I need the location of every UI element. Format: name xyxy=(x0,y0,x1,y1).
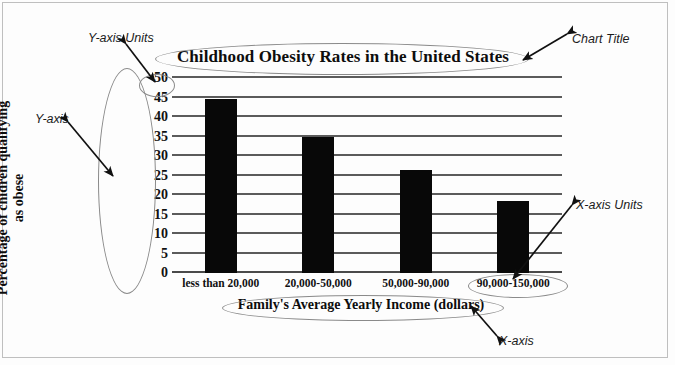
bar xyxy=(302,137,334,274)
y-axis-tick-label: 30 xyxy=(154,149,168,163)
arrow-y-axis-units xyxy=(126,44,155,82)
y-axis-tick-label: 45 xyxy=(154,91,168,105)
y-axis-tick-label: 0 xyxy=(161,266,168,280)
bar xyxy=(400,170,432,273)
gridline xyxy=(172,76,562,78)
x-axis-tick-label: 90,000-150,000 xyxy=(477,277,550,289)
annotation-chart-title: Chart Title xyxy=(572,32,630,46)
y-axis-title: Percentage of chidren qualifying as obes… xyxy=(0,88,27,308)
x-axis-tick-label: 20,000-50,000 xyxy=(285,277,352,289)
x-axis-tick-label: 50,000-90,000 xyxy=(382,277,449,289)
plot-area xyxy=(172,78,562,273)
y-axis-tick-label: 35 xyxy=(154,130,168,144)
x-axis-title: Family's Average Yearly Income (dollars) xyxy=(222,297,500,313)
y-axis-tick-label: 50 xyxy=(154,71,168,85)
annotation-y-axis-units: Y-axis Units xyxy=(88,31,154,45)
annotation-y-axis: Y-axis xyxy=(35,112,69,126)
y-axis-tick-label: 40 xyxy=(154,110,168,124)
y-axis-title-line1: Percentage of chidren qualifying xyxy=(0,101,10,295)
annotation-x-axis: X-axis xyxy=(499,334,534,348)
bar xyxy=(205,99,237,273)
y-axis-tick-label: 20 xyxy=(154,188,168,202)
annotation-x-axis-units: X-axis Units xyxy=(576,198,643,212)
x-axis-tick-label: less than 20,000 xyxy=(182,277,259,289)
y-axis-tick-labels: 05101520253035404550 xyxy=(136,78,168,273)
y-axis-tick-label: 10 xyxy=(154,227,168,241)
worksheet-chart-figure: 05101520253035404550 less than 20,00020,… xyxy=(0,0,675,365)
arrow-chart-title xyxy=(523,34,567,60)
y-axis-tick-label: 15 xyxy=(154,208,168,222)
arrow-y-axis xyxy=(68,122,113,176)
bar xyxy=(497,201,529,273)
x-axis-tick-labels: less than 20,00020,000-50,00050,000-90,0… xyxy=(172,277,562,295)
chart-title: Childhood Obesity Rates in the United St… xyxy=(168,47,518,67)
gridline xyxy=(172,96,562,98)
y-axis-title-line2: as obese xyxy=(11,174,26,223)
y-axis-tick-label: 25 xyxy=(154,169,168,183)
y-axis-tick-label: 5 xyxy=(161,247,168,261)
